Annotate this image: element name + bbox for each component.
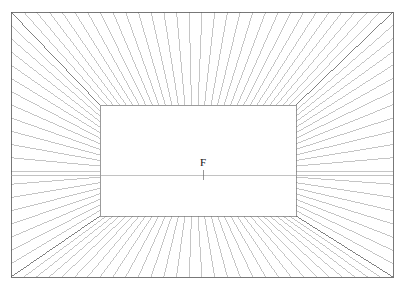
perspective-diagram: F: [0, 0, 405, 284]
ceiling-surface: [11, 12, 393, 105]
perspective-grid-svg: [0, 0, 405, 284]
vanishing-point-label: F: [200, 157, 206, 168]
floor-surface: [11, 216, 393, 277]
back-wall-outline: [100, 105, 296, 216]
right-wall-surface: [296, 12, 393, 277]
